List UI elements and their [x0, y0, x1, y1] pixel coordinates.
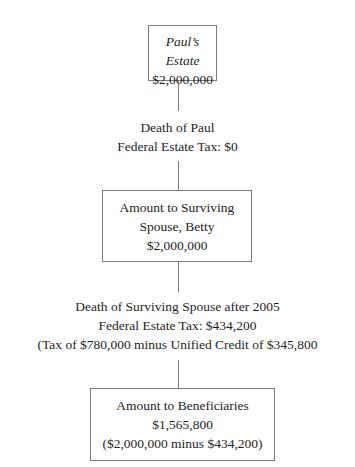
- node-beneficiaries: Amount to Beneficiaries $1,565,800 ($2,0…: [90, 388, 275, 461]
- connector-line: [178, 81, 179, 111]
- edge-event: Death of Surviving Spouse after 2005: [0, 297, 355, 316]
- edge-tax: Federal Estate Tax: $0: [0, 137, 355, 156]
- node-title-line1: Amount to Surviving: [103, 198, 251, 217]
- edge-event: Death of Paul: [0, 118, 355, 137]
- edge-tax: Federal Estate Tax: $434,200: [0, 316, 355, 335]
- node-pauls-estate: Paul’s Estate $2,000,000: [148, 25, 217, 81]
- connector-line: [178, 360, 179, 388]
- edge-label-death-of-paul: Death of Paul Federal Estate Tax: $0: [0, 118, 355, 156]
- node-title: Paul’s Estate: [149, 32, 216, 70]
- edge-label-death-of-spouse: Death of Surviving Spouse after 2005 Fed…: [0, 297, 355, 354]
- edge-tax-detail: (Tax of $780,000 minus Unified Credit of…: [0, 335, 355, 354]
- node-title: Amount to Beneficiaries: [91, 396, 274, 415]
- node-amount: $1,565,800: [91, 415, 274, 434]
- node-calculation: ($2,000,000 minus $434,200): [91, 434, 274, 453]
- connector-line: [178, 262, 179, 292]
- node-title-line2: Spouse, Betty: [103, 217, 251, 236]
- node-amount: $2,000,000: [149, 70, 216, 89]
- node-surviving-spouse: Amount to Surviving Spouse, Betty $2,000…: [102, 190, 252, 262]
- node-amount: $2,000,000: [103, 236, 251, 255]
- connector-line: [178, 161, 179, 190]
